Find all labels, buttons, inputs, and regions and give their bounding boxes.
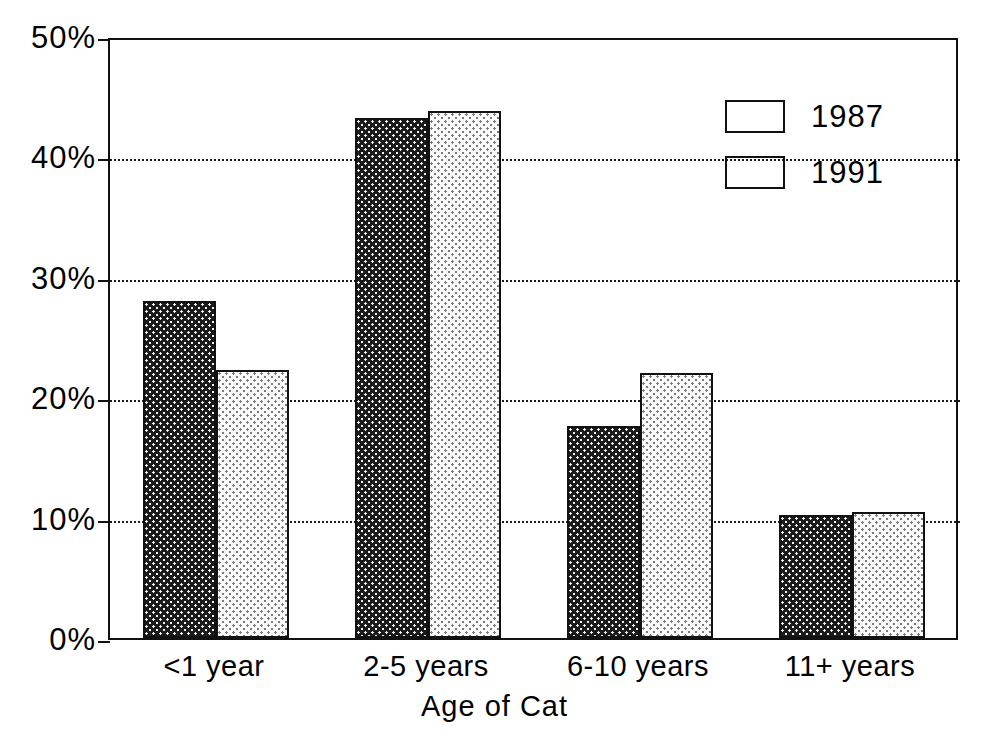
bar-1987-3[interactable] bbox=[779, 515, 852, 638]
y-axis-tick bbox=[98, 280, 110, 282]
gridline bbox=[110, 280, 960, 282]
bar-1991-0[interactable] bbox=[216, 370, 289, 638]
legend-swatch-1987 bbox=[725, 100, 785, 133]
x-axis-tick-label: 6-10 years bbox=[567, 650, 709, 683]
legend-label-1987: 1987 bbox=[811, 101, 884, 132]
y-axis-tick-label: 50% bbox=[6, 20, 96, 56]
y-axis-tick bbox=[98, 641, 110, 643]
y-axis-labels: 50%40%30%20%10%0% bbox=[0, 0, 96, 746]
x-axis-title: Age of Cat bbox=[0, 690, 989, 723]
bar-1991-2[interactable] bbox=[640, 373, 713, 638]
chart-title bbox=[0, 0, 989, 3]
y-axis-tick-label: 30% bbox=[6, 261, 96, 297]
legend-label-1991: 1991 bbox=[811, 157, 884, 188]
y-axis-tick bbox=[98, 39, 110, 41]
bar-1991-3[interactable] bbox=[852, 512, 925, 638]
legend-item[interactable]: 1987 bbox=[725, 88, 935, 144]
y-axis-tick-label: 0% bbox=[6, 622, 96, 658]
legend-item[interactable]: 1991 bbox=[725, 144, 935, 200]
y-axis-tick-label: 10% bbox=[6, 502, 96, 538]
y-axis-tick bbox=[98, 521, 110, 523]
bar-1987-2[interactable] bbox=[567, 426, 640, 638]
bar-1991-1[interactable] bbox=[428, 111, 501, 638]
y-axis-tick-label: 40% bbox=[6, 140, 96, 176]
legend: 1987 1991 bbox=[725, 88, 935, 200]
y-axis-tick bbox=[98, 400, 110, 402]
bar-1987-0[interactable] bbox=[143, 301, 216, 638]
bar-chart: 50%40%30%20%10%0% <1 year2-5 years6-10 y… bbox=[0, 0, 989, 746]
x-axis-tick-label: 2-5 years bbox=[363, 650, 488, 683]
bar-1987-1[interactable] bbox=[355, 118, 428, 638]
legend-swatch-1991 bbox=[725, 156, 785, 189]
y-axis-tick bbox=[98, 159, 110, 161]
x-axis-tick-label: <1 year bbox=[163, 650, 264, 683]
x-axis-tick-label: 11+ years bbox=[785, 650, 916, 683]
y-axis-tick-label: 20% bbox=[6, 381, 96, 417]
